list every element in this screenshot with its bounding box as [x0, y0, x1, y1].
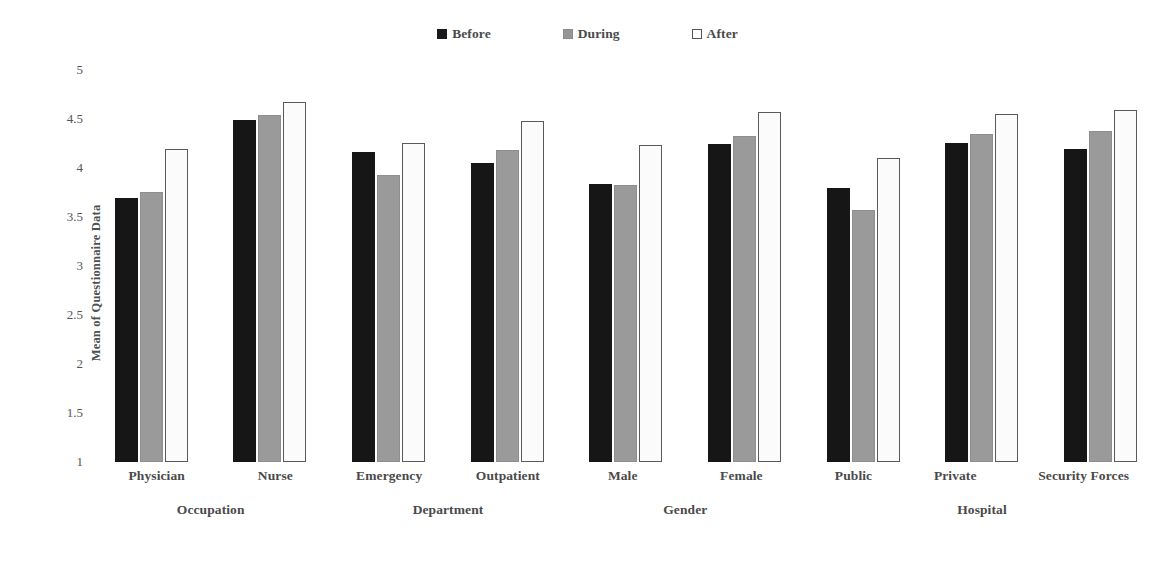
x-label-supergroup: MaleFemale — [567, 468, 804, 494]
bar-emergency-before[interactable] — [352, 152, 375, 462]
bar-group — [827, 70, 900, 462]
x-axis-group-label-gender: Gender — [567, 502, 804, 526]
bar-male-during[interactable] — [614, 185, 637, 462]
legend-item-after[interactable]: After — [692, 26, 738, 42]
bar-supergroup-hospital — [804, 70, 1160, 462]
bar-female-after[interactable] — [758, 112, 781, 462]
x-axis-category-label: Security Forces — [1038, 468, 1129, 494]
bar-public-after[interactable] — [877, 158, 900, 462]
bar-outpatient-during[interactable] — [496, 150, 519, 462]
bar-physician-during[interactable] — [140, 192, 163, 462]
x-axis-category-label: Physician — [128, 468, 184, 494]
bar-private-before[interactable] — [945, 143, 968, 462]
x-axis-category-label: Female — [720, 468, 763, 494]
x-axis-group-label-department: Department — [329, 502, 566, 526]
bar-male-before[interactable] — [589, 184, 612, 462]
bar-outpatient-before[interactable] — [471, 163, 494, 462]
bar-female-before[interactable] — [708, 144, 731, 463]
legend-item-before[interactable]: Before — [437, 26, 491, 42]
bar-group — [115, 70, 188, 462]
bar-physician-after[interactable] — [165, 149, 188, 462]
bar-nurse-during[interactable] — [258, 115, 281, 462]
bar-private-after[interactable] — [995, 114, 1018, 462]
bar-security-forces-during[interactable] — [1089, 131, 1112, 462]
bar-public-during[interactable] — [852, 210, 875, 462]
outlined-white-square-icon — [692, 29, 702, 39]
bar-supergroup-occupation — [92, 70, 329, 462]
x-label-supergroup: EmergencyOutpatient — [329, 468, 566, 494]
bar-security-forces-before[interactable] — [1064, 149, 1087, 462]
legend-item-label: During — [578, 26, 620, 42]
x-label-supergroup: PhysicianNurse — [92, 468, 329, 494]
bar-series-container — [92, 70, 1160, 462]
bar-group — [589, 70, 662, 462]
bar-supergroup-department — [329, 70, 566, 462]
legend-item-label: Before — [452, 26, 491, 42]
legend-item-during[interactable]: During — [563, 26, 620, 42]
bar-physician-before[interactable] — [115, 198, 138, 462]
y-axis-tick-label: 2.5 — [67, 307, 83, 323]
y-axis-tick-label: 4 — [77, 160, 84, 176]
x-axis-category-label: Public — [835, 468, 872, 494]
chart-legend: BeforeDuringAfter — [0, 24, 1175, 44]
y-axis-tick-label: 2 — [77, 356, 84, 372]
bar-nurse-before[interactable] — [233, 120, 256, 462]
bar-female-during[interactable] — [733, 136, 756, 462]
bar-group — [352, 70, 425, 462]
x-axis-group-labels: OccupationDepartmentGenderHospital — [92, 502, 1160, 526]
x-label-supergroup: PublicPrivateSecurity Forces — [804, 468, 1160, 494]
bar-private-during[interactable] — [970, 134, 993, 462]
y-axis-tick-label: 3 — [77, 258, 84, 274]
filled-black-square-icon — [437, 29, 447, 39]
y-axis-tick-label: 5 — [77, 62, 84, 78]
bar-group — [1064, 70, 1137, 462]
legend-item-label: After — [707, 26, 738, 42]
x-axis-group-label-hospital: Hospital — [804, 502, 1160, 526]
filled-gray-square-icon — [563, 29, 573, 39]
bar-chart-figure: BeforeDuringAfter Mean of Questionnaire … — [0, 0, 1175, 566]
x-axis-category-label: Outpatient — [476, 468, 540, 494]
bar-emergency-during[interactable] — [377, 175, 400, 462]
bar-group — [945, 70, 1018, 462]
bar-group — [471, 70, 544, 462]
x-axis-category-label: Emergency — [356, 468, 422, 494]
y-axis-tick-label: 1.5 — [67, 405, 83, 421]
x-axis-category-label: Nurse — [258, 468, 293, 494]
x-axis-category-label: Male — [608, 468, 638, 494]
bar-group — [233, 70, 306, 462]
bar-public-before[interactable] — [827, 188, 850, 462]
x-axis-group-label-occupation: Occupation — [92, 502, 329, 526]
bar-group — [708, 70, 781, 462]
x-axis-category-label: Private — [934, 468, 977, 494]
bar-outpatient-after[interactable] — [521, 121, 544, 462]
plot-area: 54.543.532.521.51 — [92, 70, 1160, 462]
y-axis-tick-label: 3.5 — [67, 209, 83, 225]
y-axis-tick-label: 4.5 — [67, 111, 83, 127]
bar-nurse-after[interactable] — [283, 102, 306, 462]
x-axis-category-labels: PhysicianNurseEmergencyOutpatientMaleFem… — [92, 468, 1160, 494]
bar-male-after[interactable] — [639, 145, 662, 462]
y-axis-tick-label: 1 — [77, 454, 84, 470]
bar-emergency-after[interactable] — [402, 143, 425, 462]
bar-supergroup-gender — [567, 70, 804, 462]
bar-security-forces-after[interactable] — [1114, 110, 1137, 462]
